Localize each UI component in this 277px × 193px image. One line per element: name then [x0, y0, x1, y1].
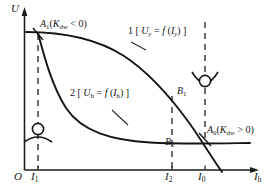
unstable-equilibrium-icon	[24, 123, 52, 142]
leader-curve-1	[131, 42, 146, 50]
y-axis-arrowhead	[22, 7, 28, 16]
leader-curve-2	[112, 110, 128, 125]
point-label-b2: B2	[165, 137, 175, 148]
curve-2-label: 2 [ Uh = f (Ih) ]	[70, 88, 129, 99]
curve-1-path	[26, 32, 222, 172]
stable-equilibrium-icon	[192, 72, 218, 87]
curve-1-label: 1 [ Uy = f (Iy) ]	[128, 26, 186, 37]
y-axis-label: U	[11, 3, 19, 14]
point-label-a1: A1(Kdw < 0)	[40, 19, 87, 30]
voltage-current-characteristic-diagram: U Ih O I1 I2 I0 A1(Kdw < 0) A0(Kdw > 0) …	[0, 0, 277, 193]
origin-label: O	[14, 171, 22, 182]
x-axis-label: Ih	[254, 171, 261, 183]
convex-hill-icon	[24, 137, 52, 142]
x-tick-label-i0: I0	[198, 171, 205, 183]
stable-ball-icon	[199, 75, 210, 86]
x-tick-label-i2: I2	[165, 171, 172, 183]
x-tick-label-i1: I1	[31, 171, 38, 183]
unstable-ball-icon	[32, 123, 43, 134]
leader-lines-group	[112, 42, 146, 125]
point-label-a0: A0(Kdw > 0)	[207, 125, 254, 136]
point-label-b1: B1	[177, 86, 187, 97]
